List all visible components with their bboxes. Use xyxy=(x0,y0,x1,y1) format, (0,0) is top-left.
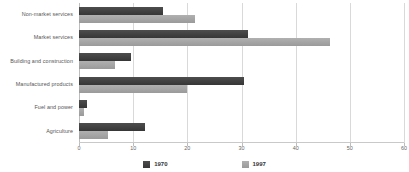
axis-tick-label: 60 xyxy=(401,146,407,151)
legend-label: 1970 xyxy=(154,161,167,167)
legend-label: 1997 xyxy=(253,161,266,167)
value-axis: 0102030405060 xyxy=(79,143,404,155)
bar-group xyxy=(79,96,404,119)
gridline xyxy=(404,3,405,143)
series-1997-swatch xyxy=(242,161,249,168)
axis-tick-label: 30 xyxy=(239,146,245,151)
category-label: Agriculture xyxy=(0,120,76,143)
series-1970-swatch xyxy=(143,161,150,168)
axis-tick-label: 10 xyxy=(130,146,136,151)
bar-group xyxy=(79,50,404,73)
category-label: Manufactured products xyxy=(0,73,76,96)
bar-group xyxy=(79,73,404,96)
category-label: Market services xyxy=(0,26,76,49)
legend-entry-1997: 1997 xyxy=(242,161,266,168)
bar-1997-market-services xyxy=(79,38,330,46)
bar-group xyxy=(79,26,404,49)
category-label: Fuel and power xyxy=(0,96,76,119)
plot-area xyxy=(79,3,404,143)
bar-1970-fuel-and-power xyxy=(79,100,87,108)
axis-tick-label: 50 xyxy=(347,146,353,151)
bar-1997-manufactured-products xyxy=(79,85,187,93)
bar-group xyxy=(79,3,404,26)
chart-legend: 1970 1997 xyxy=(0,158,409,170)
bar-group xyxy=(79,120,404,143)
bar-1970-non-market-services xyxy=(79,7,163,15)
bar-chart: Non-market services Market services Buil… xyxy=(0,0,409,172)
bar-1997-agriculture xyxy=(79,131,108,139)
axis-tick-label: 40 xyxy=(293,146,299,151)
bar-1997-fuel-and-power xyxy=(79,108,84,116)
bar-1970-manufactured-products xyxy=(79,77,244,85)
category-label: Non-market services xyxy=(0,3,76,26)
axis-tick-label: 20 xyxy=(184,146,190,151)
category-axis-labels: Non-market services Market services Buil… xyxy=(0,3,76,143)
bar-1970-agriculture xyxy=(79,123,145,131)
bar-1997-non-market-services xyxy=(79,15,195,23)
bar-1970-building-and-construction xyxy=(79,53,131,61)
bar-1970-market-services xyxy=(79,30,248,38)
axis-tick-label: 0 xyxy=(78,146,81,151)
category-label: Building and construction xyxy=(0,50,76,73)
legend-entry-1970: 1970 xyxy=(143,161,167,168)
bar-1997-building-and-construction xyxy=(79,61,115,69)
